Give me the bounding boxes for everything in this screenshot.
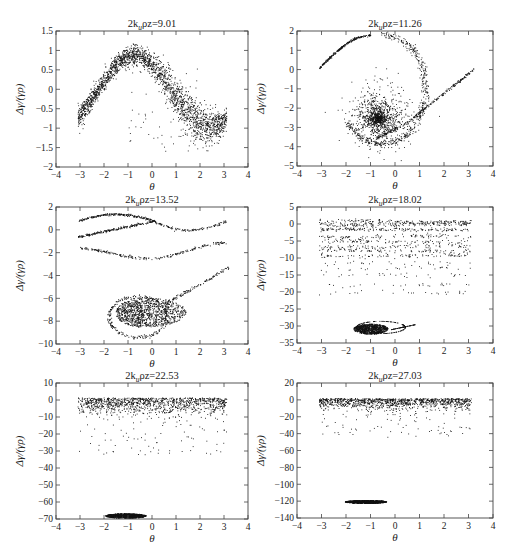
data-point bbox=[90, 412, 91, 413]
data-point bbox=[365, 500, 366, 501]
data-point bbox=[204, 138, 205, 139]
data-point bbox=[373, 95, 374, 96]
data-point bbox=[403, 46, 404, 47]
data-point bbox=[161, 77, 162, 78]
data-point bbox=[352, 109, 353, 110]
data-point bbox=[343, 404, 344, 405]
data-point bbox=[134, 316, 135, 317]
data-point bbox=[391, 144, 392, 145]
data-point bbox=[458, 235, 459, 236]
data-point bbox=[83, 102, 84, 103]
data-point bbox=[331, 229, 332, 230]
data-point bbox=[95, 99, 96, 100]
data-point bbox=[108, 407, 109, 408]
data-point bbox=[390, 38, 391, 39]
data-point bbox=[327, 235, 328, 236]
data-point bbox=[115, 253, 116, 254]
data-point bbox=[333, 223, 334, 224]
data-point bbox=[104, 231, 105, 232]
data-point bbox=[199, 126, 200, 127]
data-point bbox=[390, 246, 391, 247]
data-point bbox=[366, 407, 367, 408]
data-point bbox=[123, 320, 124, 321]
data-point bbox=[388, 224, 389, 225]
data-point bbox=[465, 275, 466, 276]
data-point bbox=[383, 133, 384, 134]
data-point bbox=[115, 72, 116, 73]
data-point bbox=[140, 337, 141, 338]
data-point bbox=[149, 304, 150, 305]
data-point bbox=[151, 410, 152, 411]
data-point bbox=[226, 108, 227, 109]
data-point bbox=[115, 399, 116, 400]
data-point bbox=[422, 235, 423, 236]
data-point bbox=[364, 333, 365, 334]
data-point bbox=[328, 401, 329, 402]
data-point bbox=[195, 110, 196, 111]
data-point bbox=[109, 216, 110, 217]
data-point bbox=[92, 398, 93, 399]
data-point bbox=[138, 256, 139, 257]
data-point bbox=[150, 398, 151, 399]
data-point bbox=[428, 242, 429, 243]
data-point bbox=[106, 252, 107, 253]
data-point bbox=[215, 418, 216, 419]
data-point bbox=[146, 310, 147, 311]
data-point bbox=[416, 56, 417, 57]
data-point bbox=[212, 108, 213, 109]
data-point bbox=[150, 325, 151, 326]
data-point bbox=[219, 126, 220, 127]
data-point bbox=[196, 410, 197, 411]
data-point bbox=[448, 255, 449, 256]
data-point bbox=[145, 64, 146, 65]
data-point bbox=[378, 407, 379, 408]
data-point bbox=[112, 402, 113, 403]
data-point bbox=[141, 437, 142, 438]
data-point bbox=[175, 298, 176, 299]
data-point bbox=[436, 398, 437, 399]
data-point bbox=[202, 403, 203, 404]
data-point bbox=[338, 398, 339, 399]
x-tick-label: 3 bbox=[466, 521, 471, 531]
data-point bbox=[187, 134, 188, 135]
data-point bbox=[406, 105, 407, 106]
data-point bbox=[321, 236, 322, 237]
data-point bbox=[101, 90, 102, 91]
data-point bbox=[180, 401, 181, 402]
data-point bbox=[362, 112, 363, 113]
data-point bbox=[217, 398, 218, 399]
data-point bbox=[379, 222, 380, 223]
data-point bbox=[189, 405, 190, 406]
data-point bbox=[369, 409, 370, 410]
data-point bbox=[426, 107, 427, 108]
data-point bbox=[387, 221, 388, 222]
data-point bbox=[338, 403, 339, 404]
data-point bbox=[175, 84, 176, 85]
data-point bbox=[428, 255, 429, 256]
data-point bbox=[184, 291, 185, 292]
data-point bbox=[90, 104, 91, 105]
data-point bbox=[423, 70, 424, 71]
data-point bbox=[121, 303, 122, 304]
data-point bbox=[385, 125, 386, 126]
data-point bbox=[423, 78, 424, 79]
data-point bbox=[385, 223, 386, 224]
data-point bbox=[127, 47, 128, 48]
data-point bbox=[380, 116, 381, 117]
data-point bbox=[388, 34, 389, 35]
data-point bbox=[169, 85, 170, 86]
data-point bbox=[192, 109, 193, 110]
data-point bbox=[160, 306, 161, 307]
data-point bbox=[424, 113, 425, 114]
data-point bbox=[171, 407, 172, 408]
data-point bbox=[176, 93, 177, 94]
data-point bbox=[374, 248, 375, 249]
data-point bbox=[425, 83, 426, 84]
data-point bbox=[209, 400, 210, 401]
x-tick-label: 2 bbox=[442, 346, 447, 356]
data-point bbox=[193, 123, 194, 124]
data-point bbox=[407, 402, 408, 403]
data-point bbox=[427, 223, 428, 224]
data-point bbox=[82, 409, 83, 410]
data-point bbox=[422, 112, 423, 113]
